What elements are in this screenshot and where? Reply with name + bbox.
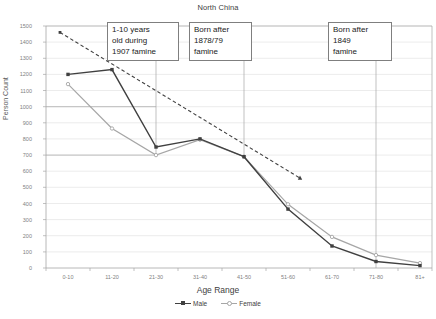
legend-label-female: Female xyxy=(239,300,261,307)
chart-legend: Male Female xyxy=(0,300,436,307)
trendline-dashed xyxy=(60,32,300,178)
legend-item-male[interactable]: Male xyxy=(175,300,207,307)
callout-line: 1-10 years xyxy=(112,25,174,36)
chart-container: North China Person Count Age Range 1500 … xyxy=(0,0,436,319)
legend-label-male: Male xyxy=(193,300,207,307)
callout-1878-famine: Born after 1878/79 famine xyxy=(189,22,252,61)
callout-1907-famine: 1-10 years old during 1907 famine xyxy=(107,22,179,61)
callout-line: 1849 xyxy=(333,36,387,47)
x-axis-line xyxy=(46,268,432,271)
legend-swatch-male-icon xyxy=(175,300,191,307)
callout-line: old during xyxy=(112,36,174,47)
callout-1849-famine: Born after 1849 famine xyxy=(328,22,392,61)
y-axis-line xyxy=(43,26,46,268)
legend-swatch-female-icon xyxy=(221,300,237,307)
callout-line: Born after xyxy=(333,25,387,36)
callout-leader-lines xyxy=(46,26,432,268)
callout-line: 1907 famine xyxy=(112,47,174,58)
callout-line: Born after xyxy=(194,25,247,36)
callout-line: famine xyxy=(333,47,387,58)
callout-line: 1878/79 xyxy=(194,36,247,47)
callout-line: famine xyxy=(194,47,247,58)
legend-item-female[interactable]: Female xyxy=(221,300,261,307)
